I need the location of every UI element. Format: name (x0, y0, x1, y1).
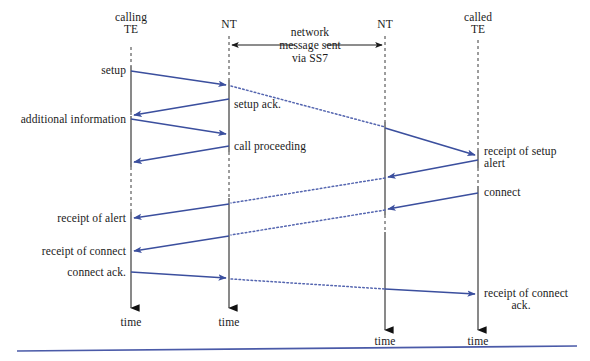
message-arrow-receipt-of-setup (385, 128, 475, 155)
message-arrow-connect-ack (131, 272, 226, 278)
message-line-connect-ack-network (231, 279, 385, 289)
message-label-connect-ack: connect ack. (67, 266, 126, 278)
bottom-divider (17, 346, 577, 351)
message-line-connect-network (231, 210, 385, 235)
column-header-nt-right: NT (377, 18, 393, 30)
message-arrow-alert (388, 160, 478, 177)
network-note-line3: via SS7 (292, 52, 328, 64)
time-label-nt-left: time (219, 316, 240, 328)
message-label-setup-ack: setup ack. (234, 98, 281, 111)
message-label-receipt-of-alert: receipt of alert (57, 212, 126, 225)
message-label-ack: ack. (511, 299, 530, 311)
message-arrow-call-proceeding (134, 146, 229, 162)
message-label-connect: connect (484, 186, 521, 198)
message-arrow-receipt-of-connect-ack (385, 289, 475, 294)
column-header-called-te-line1: called (464, 11, 492, 23)
message-arrow-setup-ack (134, 99, 229, 115)
message-arrow-additional-information (131, 119, 226, 134)
diagram-page: calling TE NT NT called TE network messa… (0, 0, 590, 361)
network-note-line2: message sent (279, 39, 341, 52)
column-header-calling-te-line2: TE (124, 23, 138, 35)
column-header-called-te-line2: TE (471, 23, 485, 35)
message-arrow-connect (388, 193, 478, 209)
message-arrow-receipt-of-connect (134, 236, 229, 251)
message-label-additional-information: additional information (21, 113, 127, 125)
message-arrow-receipt-of-alert (134, 204, 229, 218)
time-label-nt-right: time (375, 335, 396, 347)
message-line-alert-network (231, 178, 385, 203)
message-label-receipt-of-connect: receipt of connect (42, 245, 127, 258)
message-label-setup: setup (101, 64, 126, 77)
time-label-called-te: time (468, 335, 489, 347)
message-arrow-setup (131, 71, 226, 85)
time-label-calling-te: time (121, 316, 142, 328)
column-header-nt-left: NT (221, 18, 237, 30)
message-label-call-proceeding: call proceeding (234, 140, 306, 153)
sequence-diagram-canvas: calling TE NT NT called TE network messa… (0, 0, 590, 361)
network-note-line1: network (291, 26, 330, 38)
message-label-alert: alert (484, 157, 506, 169)
